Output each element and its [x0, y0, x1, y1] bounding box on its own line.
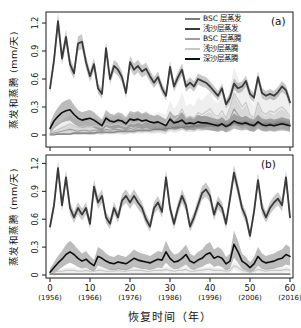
x-tick-label: 50: [245, 283, 256, 293]
y-axis-title-panel-b: 蒸发和蒸腾 (mm/天): [6, 168, 20, 266]
y-tick-label: 0.9: [31, 185, 40, 198]
x-tick-label: 20: [125, 283, 136, 293]
legend: BSC 层蒸发 浅沙层蒸发 BSC 层蒸腾 浅沙层蒸腾 深沙层蒸腾: [185, 14, 241, 64]
x-tick-year-label: (2016): [278, 294, 301, 302]
figure-evapotranspiration-timeseries: 00.30.60.91.200.30.60.91.20(1956)10(1966…: [0, 0, 301, 328]
x-tick-year-label: (1996): [198, 294, 222, 302]
x-tick-year-label: (1966): [78, 294, 102, 302]
panel-(a)-plot-area: [50, 13, 290, 135]
x-tick-label: 60: [285, 283, 296, 293]
y-tick-label: 0: [31, 132, 40, 137]
y-tick-label: 0.6: [31, 213, 40, 226]
legend-label: 深沙层蒸腾: [203, 54, 238, 64]
y-tick-label: 0.3: [31, 241, 40, 254]
uncertainty-band-1: [50, 160, 290, 241]
x-axis-title: 恢复时间（年）: [128, 308, 212, 324]
legend-label: BSC 层蒸发: [203, 14, 241, 24]
legend-item-bsc-evaporation: BSC 层蒸发: [185, 14, 241, 24]
deep-sand-transpiration-line-swatch: [185, 58, 200, 60]
legend-label: BSC 层蒸腾: [203, 34, 241, 44]
chart-canvas: 00.30.60.91.200.30.60.91.20(1956)10(1966…: [0, 0, 301, 328]
bsc-evaporation-line-swatch: [185, 18, 200, 20]
x-tick-year-label: (1956): [38, 294, 62, 302]
legend-label: 浅沙层蒸腾: [203, 44, 238, 54]
y-axis-title-panel-a: 蒸发和蒸腾 (mm/天): [6, 31, 20, 129]
panel-label-b: (b): [261, 158, 276, 170]
x-tick-label: 0: [47, 283, 52, 293]
x-tick-year-label: (1976): [118, 294, 142, 302]
shallow-sand-evaporation-line-swatch: [185, 28, 200, 30]
legend-label: 浅沙层蒸发: [203, 24, 238, 34]
y-tick-label: 1.2: [31, 157, 40, 170]
x-tick-year-label: (2006): [238, 294, 262, 302]
panel-(b)-plot-area: [50, 160, 290, 275]
bsc-transpiration-line-swatch: [185, 38, 200, 40]
x-tick-label: 10: [85, 283, 96, 293]
y-tick-label: 1.2: [31, 17, 40, 30]
legend-item-shallow-sand-evaporation: 浅沙层蒸发: [185, 24, 241, 34]
y-tick-label: 0.6: [31, 73, 40, 86]
x-tick-year-label: (1986): [158, 294, 182, 302]
legend-item-deep-sand-transpiration: 深沙层蒸腾: [185, 54, 241, 64]
y-tick-label: 0.9: [31, 45, 40, 58]
x-tick-label: 40: [205, 283, 216, 293]
shallow-sand-transpiration-line-swatch: [185, 48, 200, 50]
y-tick-label: 0.3: [31, 101, 40, 114]
panel-label-a: (a): [271, 15, 286, 27]
x-tick-label: 30: [165, 283, 176, 293]
y-tick-label: 0: [31, 272, 40, 277]
legend-item-shallow-sand-transpiration: 浅沙层蒸腾: [185, 44, 241, 54]
legend-item-bsc-transpiration: BSC 层蒸腾: [185, 34, 241, 44]
